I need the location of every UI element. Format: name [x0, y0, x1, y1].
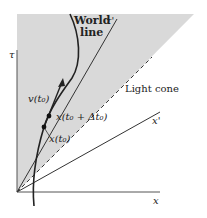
point-t0-label: x(t₀) [49, 134, 70, 144]
point-x-t0 [42, 125, 47, 130]
point-t0-dt-label: x(t₀ + Δt₀) [56, 112, 107, 122]
point-x-t0-dt [47, 114, 52, 119]
diagram-graphics [0, 0, 207, 218]
tau-axis-label: τ [9, 50, 15, 60]
x-prime-label: x' [152, 116, 160, 126]
spacetime-diagram: τ x τ' x' World line Light cone v(t₀) x(… [0, 0, 207, 218]
x-axis-label: x [153, 196, 159, 206]
velocity-label: v(t₀) [28, 94, 49, 104]
light-cone-label: Light cone [125, 84, 179, 94]
world-line-label-1: World [74, 15, 110, 26]
world-line-label-2: line [80, 27, 103, 38]
